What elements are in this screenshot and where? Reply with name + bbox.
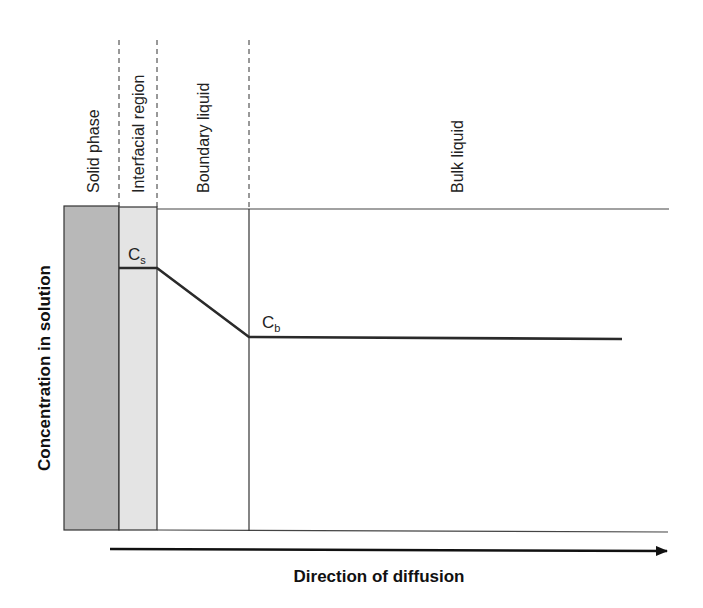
- y-axis-label: Concentration in solution: [35, 265, 54, 471]
- solid-phase-region: [64, 206, 119, 530]
- diffusion-direction-arrow: [110, 549, 667, 551]
- x-axis-label: Direction of diffusion: [294, 567, 465, 586]
- region-label-bulk-liquid: Bulk liquid: [449, 120, 466, 193]
- region-label-boundary-liquid: Boundary liquid: [195, 83, 212, 193]
- bulk-concentration-label: Cb: [262, 313, 280, 334]
- region-label-interfacial: Interfacial region: [130, 75, 147, 193]
- diffusion-diagram: Solid phase Interfacial region Boundary …: [0, 0, 703, 608]
- bottom-boundary-line: [157, 530, 668, 532]
- concentration-profile-line: [119, 268, 622, 339]
- region-label-solid-phase: Solid phase: [85, 109, 102, 193]
